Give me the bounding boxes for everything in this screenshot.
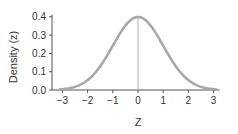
x-tick-label: 0	[135, 95, 141, 106]
density-chart: 0.00.10.20.30.4 −3−2−10123 Z Density (z)	[0, 0, 238, 134]
y-tick-label: 0.1	[32, 66, 46, 77]
x-tick-label: −3	[57, 95, 69, 106]
x-axis-label: Z	[135, 116, 142, 128]
y-axis: 0.00.10.20.30.4	[32, 11, 52, 95]
y-tick-label: 0.0	[32, 85, 46, 96]
x-tick-label: 2	[186, 95, 192, 106]
x-tick-label: 3	[211, 95, 217, 106]
y-tick-label: 0.4	[32, 11, 46, 22]
x-tick-label: −1	[107, 95, 119, 106]
y-tick-label: 0.2	[32, 48, 46, 59]
x-tick-label: −2	[82, 95, 94, 106]
y-axis-label: Density (z)	[7, 31, 19, 84]
x-axis: −3−2−10123	[52, 90, 220, 106]
y-tick-label: 0.3	[32, 30, 46, 41]
x-tick-label: 1	[160, 95, 166, 106]
